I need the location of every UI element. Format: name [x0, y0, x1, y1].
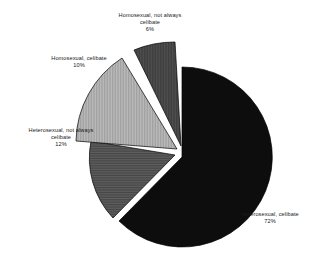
slice-label-line1: Homosexual, celibate: [20, 55, 138, 62]
slice-label-line1: Homosexual, not always: [88, 12, 212, 19]
slice-label-line1: Heterosexual, not always: [0, 127, 122, 134]
slice-label-heterosexual-celibate: Heterosexual, celibate 72%: [212, 211, 328, 225]
slice-label-percent: 10%: [20, 62, 138, 69]
slice-label-percent: 72%: [212, 218, 328, 225]
pie-chart-figure: Homosexual, not always celibate 6% Homos…: [0, 0, 330, 259]
slice-label-heterosexual-not-always-celibate: Heterosexual, not always celibate 12%: [0, 127, 122, 149]
slice-label-line2: celibate: [88, 19, 212, 26]
slice-label-percent: 12%: [0, 141, 122, 148]
slice-label-percent: 6%: [88, 26, 212, 33]
slice-label-line2: celibate: [0, 134, 122, 141]
slice-label-homosexual-not-always-celibate: Homosexual, not always celibate 6%: [88, 12, 212, 34]
slice-label-line1: Heterosexual, celibate: [212, 211, 328, 218]
slice-label-homosexual-celibate: Homosexual, celibate 10%: [20, 55, 138, 69]
